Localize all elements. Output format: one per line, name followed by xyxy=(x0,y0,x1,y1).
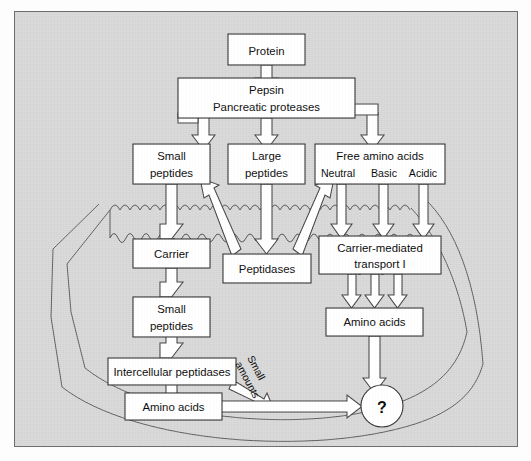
node-free-amino-acids[interactable]: Free amino acids Neutral Basic Acidic xyxy=(315,144,445,184)
node-small-peptides-cell-line2: peptides xyxy=(150,320,193,332)
node-small-peptides-cell-line1: Small xyxy=(157,303,185,315)
node-small-peptides-lumen-line1: Small xyxy=(157,150,185,162)
node-small-peptides-cell[interactable]: Small peptides xyxy=(133,297,210,337)
node-peptidases[interactable]: Peptidases xyxy=(223,254,311,283)
diagram-panel: Protein Pepsin Pancreatic proteases Smal… xyxy=(14,11,518,447)
node-amino-acids-bottom-label: Amino acids xyxy=(142,401,204,413)
node-large-peptides-line1: Large xyxy=(252,150,281,162)
node-unknown[interactable]: ? xyxy=(361,385,403,427)
arrow-basic-to-transport xyxy=(373,184,394,239)
node-carrier-label: Carrier xyxy=(154,248,189,260)
node-aa-basic-label: Basic xyxy=(371,167,398,179)
node-amino-acids-bottom[interactable]: Amino acids xyxy=(125,393,222,420)
arrow-carrier-to-small-peptides-cell xyxy=(160,268,183,297)
arrow-acidic-to-transport xyxy=(413,184,434,239)
node-transport-line1: Carrier-mediated xyxy=(337,242,422,254)
node-carrier-mediated-transport[interactable]: Carrier-mediated transport I xyxy=(319,236,441,274)
node-large-peptides[interactable]: Large peptides xyxy=(228,144,305,184)
node-large-peptides-line2: peptides xyxy=(245,167,288,179)
node-peptidases-label: Peptidases xyxy=(239,263,296,275)
node-carrier[interactable]: Carrier xyxy=(133,239,210,268)
arrow-amino-acids-to-unknown xyxy=(363,336,386,393)
node-intercellular-peptidases[interactable]: Intercellular peptidases xyxy=(108,358,236,385)
node-pancreatic-proteases-label: Pancreatic proteases xyxy=(213,101,320,113)
arrow-transport-to-amino-acids-1 xyxy=(342,274,361,308)
arrow-large-peptides-to-peptidases xyxy=(255,184,278,254)
arrow-transport-to-amino-acids-2 xyxy=(365,274,384,308)
node-small-peptides-lumen[interactable]: Small peptides xyxy=(133,144,210,184)
node-amino-acids-right[interactable]: Amino acids xyxy=(326,308,423,336)
node-pepsin-label: Pepsin xyxy=(249,84,284,96)
node-small-peptides-lumen-line2: peptides xyxy=(150,167,193,179)
node-unknown-label: ? xyxy=(377,399,387,416)
arrow-small-peptides-to-carrier xyxy=(160,184,183,239)
node-transport-line2: transport I xyxy=(354,258,405,270)
diagram-canvas: Protein Pepsin Pancreatic proteases Smal… xyxy=(15,12,518,447)
node-amino-acids-right-label: Amino acids xyxy=(343,316,405,328)
node-aa-neutral-label: Neutral xyxy=(321,167,355,179)
arrow-transport-to-amino-acids-3 xyxy=(388,274,407,308)
node-protein-label: Protein xyxy=(248,45,284,57)
brush-border-apical xyxy=(110,205,410,238)
node-aa-acidic-label: Acidic xyxy=(409,167,438,179)
node-free-amino-acids-label: Free amino acids xyxy=(336,150,424,162)
arrow-neutral-to-transport xyxy=(331,184,352,239)
arrow-bottom-amino-acids-to-unknown xyxy=(221,395,362,418)
node-intercellular-peptidases-label: Intercellular peptidases xyxy=(113,366,230,378)
node-enzymes[interactable]: Pepsin Pancreatic proteases xyxy=(178,78,355,118)
node-protein[interactable]: Protein xyxy=(228,34,305,65)
figure-stage: Protein Pepsin Pancreatic proteases Smal… xyxy=(0,0,531,461)
